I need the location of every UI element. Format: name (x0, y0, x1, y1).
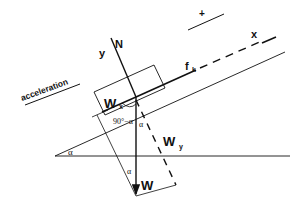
alpha-bottom-label: α (127, 167, 132, 176)
plus-label: + (199, 8, 205, 19)
weight-label: W (141, 178, 154, 193)
wy-subscript: y (179, 143, 183, 151)
alpha-incline-label: α (68, 147, 73, 157)
alpha-top-label: α (139, 120, 144, 129)
x-axis-dashed (200, 41, 262, 68)
free-body-diagram: + acceleration y N f k x W x 90°−α α α α… (0, 0, 298, 209)
friction-label: f (185, 60, 189, 72)
wx-projection-line (97, 115, 136, 196)
acceleration-label: acceleration (19, 77, 69, 103)
friction-force-arrow (136, 70, 196, 97)
normal-label: N (115, 38, 123, 50)
complement-angle-label: 90°−α (113, 117, 134, 126)
plus-direction-line (188, 14, 224, 30)
wx-subscript: x (119, 103, 123, 110)
wx-projection-cap (92, 110, 108, 117)
x-axis-arrowhead (262, 37, 276, 43)
wy-label: W (163, 134, 176, 149)
wx-label: W (104, 96, 117, 111)
x-axis-label: x (251, 28, 258, 40)
y-axis-label: y (99, 47, 106, 59)
friction-subscript: k (192, 66, 196, 73)
